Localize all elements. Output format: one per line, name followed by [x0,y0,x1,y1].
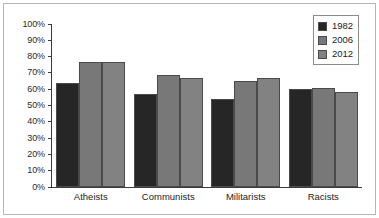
y-axis-tick-label: 10% [27,166,48,175]
chart-legend: 198220062012 [313,15,359,65]
bar [335,92,358,187]
bar-group [56,24,125,187]
legend-swatch-icon [318,22,327,31]
y-axis-tick-label: 100% [22,20,48,29]
y-axis-tick-label: 40% [27,117,48,126]
bar [157,75,180,187]
bar [79,62,102,188]
y-axis-tick-label: 80% [27,52,48,61]
legend-item: 2006 [318,33,353,47]
bar [180,78,203,187]
bar [312,88,335,187]
bar [134,94,157,187]
bar-group [134,24,203,187]
bar [257,78,280,187]
y-axis-tick-label: 70% [27,68,48,77]
legend-label: 2012 [332,49,353,59]
y-axis-tick-label: 50% [27,101,48,110]
x-axis-category-labels: AtheistsCommunistsMilitaristsRacists [52,192,362,210]
legend-label: 1982 [332,21,353,31]
legend-label: 2006 [332,35,353,45]
bar-group [211,24,280,187]
x-axis-category-label: Racists [285,192,363,202]
x-axis-category-label: Communists [130,192,208,202]
bar [56,83,79,187]
y-axis: 100%90%80%70%60%50%40%30%20%10%0% [4,4,52,188]
bar [211,99,234,187]
legend-swatch-icon [318,50,327,59]
y-axis-tick-label: 30% [27,134,48,143]
x-axis-category-label: Militarists [207,192,285,202]
legend-item: 1982 [318,19,353,33]
y-axis-tick-label: 60% [27,85,48,94]
bar [289,89,312,187]
chart-frame: 100%90%80%70%60%50%40%30%20%10%0% Atheis… [3,3,376,215]
y-axis-tick-label: 0% [32,183,48,192]
legend-swatch-icon [318,36,327,45]
y-axis-tick-label: 20% [27,150,48,159]
x-axis-line [51,187,362,188]
x-axis-category-label: Atheists [52,192,130,202]
bar-chart-figure: 100%90%80%70%60%50%40%30%20%10%0% Atheis… [0,0,379,218]
bar [102,62,125,188]
y-axis-tick-label: 90% [27,36,48,45]
legend-item: 2012 [318,47,353,61]
bar [234,81,257,187]
